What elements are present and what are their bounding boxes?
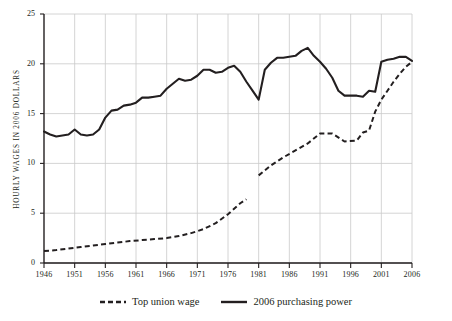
legend-item-purchasing-power: 2006 purchasing power [221, 296, 352, 307]
x-tick-label: 1946 [27, 270, 61, 279]
wage-chart-figure: Hourly wages in 2006 dollars Top union w… [0, 0, 452, 321]
x-tick-label: 1966 [150, 270, 184, 279]
series-line-top-union-wage-1 [259, 62, 412, 176]
x-tick-label: 1991 [303, 270, 337, 279]
x-tick-label: 2001 [364, 270, 398, 279]
x-tick-label: 1961 [119, 270, 153, 279]
x-tick-label: 1971 [180, 270, 214, 279]
x-tick-label: 1981 [242, 270, 276, 279]
legend-swatch-dashed-icon [100, 297, 126, 307]
x-tick-label: 2006 [395, 270, 429, 279]
y-tick-label: 5 [19, 208, 35, 217]
x-tick-label: 1996 [334, 270, 368, 279]
x-tick-label: 1951 [58, 270, 92, 279]
legend-label-top-union-wage: Top union wage [132, 296, 200, 307]
legend-item-top-union-wage: Top union wage [100, 296, 200, 307]
legend-label-purchasing-power: 2006 purchasing power [253, 296, 352, 307]
x-tick-label: 1986 [272, 270, 306, 279]
legend-swatch-solid-icon [221, 297, 247, 307]
y-tick-label: 0 [19, 258, 35, 267]
y-tick-label: 10 [19, 158, 35, 167]
y-tick-label: 20 [19, 59, 35, 68]
chart-legend: Top union wage 2006 purchasing power [0, 296, 452, 307]
y-tick-label: 15 [19, 109, 35, 118]
x-tick-label: 1956 [88, 270, 122, 279]
y-tick-label: 25 [19, 9, 35, 18]
x-tick-label: 1976 [211, 270, 245, 279]
